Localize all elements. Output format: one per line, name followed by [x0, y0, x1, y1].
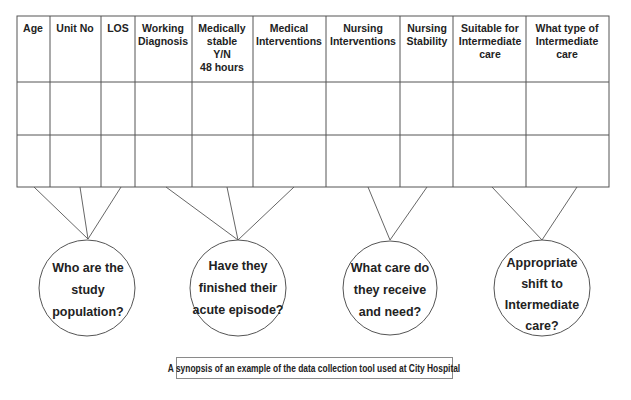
header-type-2: Intermediate: [536, 35, 599, 47]
svg-text:Appropriate: Appropriate: [507, 256, 578, 270]
svg-text:shift to: shift to: [521, 277, 563, 291]
header-unit-no: Unit No: [56, 22, 93, 34]
svg-text:study: study: [71, 283, 104, 297]
caption-box: A synopsis of an example of the data col…: [176, 357, 453, 379]
svg-text:care?: care?: [525, 319, 558, 333]
header-los: LOS: [107, 22, 129, 34]
header-medically-stable-4: 48 hours: [200, 61, 244, 73]
header-suitable-1: Suitable for: [461, 22, 519, 34]
header-nursing-stability-1: Nursing: [407, 22, 447, 34]
question-circle-study-population: Who are the study population?: [39, 240, 135, 336]
question-circle-intermediate-shift: Appropriate shift to Intermediate care?: [494, 240, 590, 336]
svg-text:Intermediate: Intermediate: [505, 298, 579, 312]
svg-text:Who are the: Who are the: [52, 261, 124, 275]
connector-lines: [34, 187, 577, 240]
question-circle-care-received: What care do they receive and need?: [343, 241, 437, 335]
header-medically-stable-2: stable: [207, 35, 238, 47]
header-type-3: care: [556, 48, 578, 60]
header-age: Age: [23, 22, 43, 34]
header-nursing-interventions-1: Nursing: [343, 22, 383, 34]
svg-text:population?: population?: [52, 305, 124, 319]
svg-text:finished their: finished their: [199, 281, 278, 295]
header-suitable-3: care: [479, 48, 501, 60]
header-medical-interventions-1: Medical: [270, 22, 309, 34]
header-working-diagnosis-2: Diagnosis: [138, 35, 188, 47]
header-nursing-stability-2: Stability: [407, 35, 448, 47]
question-circle-acute-episode: Have they finished their acute episode?: [190, 240, 286, 336]
header-medical-interventions-2: Interventions: [256, 35, 322, 47]
header-nursing-interventions-2: Interventions: [330, 35, 396, 47]
caption-text: A synopsis of an example of the data col…: [168, 363, 460, 374]
svg-text:What care do: What care do: [351, 261, 430, 275]
svg-text:and need?: and need?: [359, 305, 422, 319]
header-working-diagnosis-1: Working: [142, 22, 184, 34]
header-type-1: What type of: [536, 22, 599, 34]
svg-text:Have they: Have they: [208, 259, 267, 273]
header-suitable-2: Intermediate: [459, 35, 522, 47]
header-medically-stable-3: Y/N: [213, 48, 231, 60]
header-medically-stable-1: Medically: [198, 22, 245, 34]
svg-text:acute episode?: acute episode?: [193, 303, 284, 317]
data-collection-diagram: Age Unit No LOS Working Diagnosis Medica…: [0, 0, 631, 400]
svg-text:they receive: they receive: [354, 283, 426, 297]
